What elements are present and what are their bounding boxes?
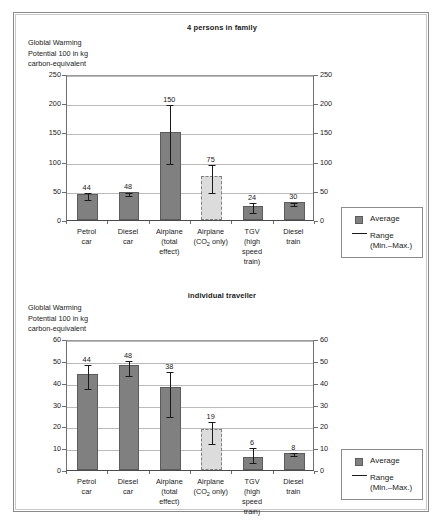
y-axis-tick-label: 0 (32, 467, 61, 475)
average-swatch-icon (348, 456, 370, 466)
error-bar-cap-min (167, 417, 174, 418)
error-bar-cap-max (84, 193, 91, 194)
x-axis-tick-mark (107, 471, 108, 474)
y-axis-tick-mark (314, 449, 318, 450)
error-bar-cap-min (208, 444, 215, 445)
legend-label-range: Range (Min.–Max.) (370, 473, 412, 493)
error-bar-cap-min (291, 456, 298, 457)
y-axis-tick-mark (314, 340, 318, 341)
error-bar-cap-max (167, 372, 174, 373)
gridline (67, 428, 313, 429)
x-axis-tick-mark (314, 221, 315, 224)
y-axis-tick-mark (314, 192, 318, 193)
y-axis-tick-label: 150 (32, 129, 61, 137)
y-axis-tick-label: 50 (32, 358, 61, 366)
error-bar-cap-min (84, 200, 91, 201)
legend-label-range: Range (Min.–Max.) (370, 231, 412, 251)
error-bar-cap-max (291, 203, 298, 204)
error-bar-cap-min (84, 389, 91, 390)
x-axis-tick-mark (273, 221, 274, 224)
y-axis-tick-label: 50 (320, 188, 349, 196)
plot-area-family (66, 75, 314, 221)
y-axis-tick-mark (62, 384, 66, 385)
y-axis-tick-mark (62, 75, 66, 76)
y-axis-tick-label: 60 (32, 336, 61, 344)
y-axis-tick-mark (62, 340, 66, 341)
range-swatch-icon (348, 231, 370, 234)
legend-item-average: Average (348, 456, 415, 466)
error-bar-cap-min (291, 206, 298, 207)
y-axis-tick-label: 20 (32, 423, 61, 431)
y-axis-tick-mark (314, 75, 318, 76)
y-axis-tick-mark (62, 104, 66, 105)
gridline (67, 450, 313, 451)
y-axis-tick-label: 30 (320, 402, 349, 410)
error-bar-cap-max (208, 165, 215, 166)
y-axis-tick-mark (314, 384, 318, 385)
y-axis-tick-label: 250 (320, 71, 349, 79)
x-axis-category-label: Dieseltrain (265, 227, 322, 247)
bar-value-label: 44 (83, 356, 91, 364)
error-bar (212, 422, 213, 444)
error-bar (170, 372, 171, 418)
error-bar-cap-min (250, 463, 257, 464)
bar-value-label: 48 (124, 352, 132, 360)
y-axis-tick-mark (62, 192, 66, 193)
gridline (67, 407, 313, 408)
legend-item-range: Range (Min.–Max.) (348, 473, 415, 493)
y-axis-tick-label: 60 (320, 336, 349, 344)
gridline (67, 363, 313, 364)
gridline (67, 76, 313, 77)
legend-label-average: Average (370, 214, 400, 224)
chart-panel-family: 4 persons in family Globlal Warming Pote… (14, 15, 430, 267)
error-bar-cap-max (126, 361, 133, 362)
y-axis-tick-label: 30 (32, 402, 61, 410)
error-bar-cap-min (167, 164, 174, 165)
legend-individual: Average Range (Min.–Max.) (341, 449, 423, 500)
y-axis-caption-family: Globlal Warming Potential 100 in kg carb… (28, 38, 88, 70)
x-axis-tick-mark (66, 471, 67, 474)
y-axis-tick-label: 20 (320, 423, 349, 431)
error-bar (253, 203, 254, 213)
y-axis-tick-label: 40 (320, 380, 349, 388)
error-bar-cap-max (291, 453, 298, 454)
y-axis-tick-mark (314, 133, 318, 134)
bar-value-label: 150 (163, 96, 175, 104)
bar-value-label: 19 (207, 413, 215, 421)
x-axis-tick-mark (231, 221, 232, 224)
bar-value-label: 6 (250, 439, 254, 447)
error-bar-cap-max (250, 448, 257, 449)
y-axis-tick-label: 0 (32, 217, 61, 225)
chart-title-individual: individual traveller (14, 291, 430, 300)
legend-item-range: Range (Min.–Max.) (348, 231, 415, 251)
bar-value-label: 75 (207, 156, 215, 164)
y-axis-tick-label: 200 (320, 100, 349, 108)
gridline (67, 341, 313, 342)
average-swatch-icon (348, 214, 370, 224)
y-axis-tick-mark (314, 427, 318, 428)
plot-area-individual (66, 340, 314, 471)
y-axis-tick-mark (314, 104, 318, 105)
y-axis-tick-mark (314, 406, 318, 407)
y-axis-caption-individual: Globlal Warming Potential 100 in kg carb… (28, 303, 88, 335)
x-axis-tick-mark (107, 221, 108, 224)
bar-value-label: 24 (248, 194, 256, 202)
x-axis-tick-mark (149, 221, 150, 224)
y-axis-tick-mark (62, 163, 66, 164)
range-swatch-icon (348, 473, 370, 476)
chart-title-family: 4 persons in family (14, 23, 430, 32)
x-axis-tick-mark (231, 471, 232, 474)
x-axis-tick-mark (66, 221, 67, 224)
y-axis-tick-label: 150 (320, 129, 349, 137)
x-axis-category-label: Dieseltrain (265, 477, 322, 497)
gridline (67, 385, 313, 386)
y-axis-tick-mark (62, 133, 66, 134)
y-axis-tick-mark (62, 406, 66, 407)
error-bar-cap-min (250, 213, 257, 214)
error-bar (170, 105, 171, 163)
error-bar (129, 361, 130, 376)
bar-value-label: 30 (289, 193, 297, 201)
y-axis-tick-label: 10 (32, 445, 61, 453)
error-bar-cap-min (126, 376, 133, 377)
x-axis-tick-mark (314, 471, 315, 474)
